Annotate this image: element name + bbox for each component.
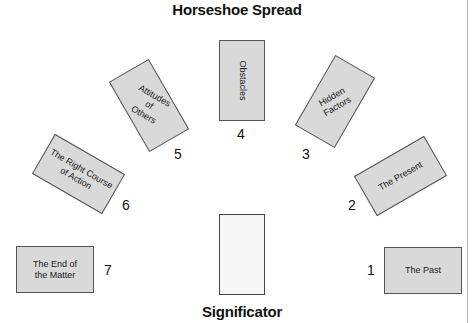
- card-label: Hidden Factors: [316, 84, 353, 118]
- card-label: The Past: [405, 265, 441, 276]
- significator-label: Significator: [0, 303, 474, 320]
- card-label: Obstacles: [237, 60, 248, 100]
- card-significator: [219, 214, 265, 295]
- card-obstacles: Obstacles: [219, 40, 265, 121]
- card-label: The Right Course of Action: [42, 147, 114, 201]
- card-label: The End of the Matter: [33, 259, 77, 281]
- position-number-5: 5: [174, 147, 182, 161]
- card-the-present: The Present: [354, 136, 447, 216]
- diagram-title: Horseshoe Spread: [0, 1, 474, 18]
- card-the-past: The Past: [384, 247, 462, 294]
- card-label: Attitudes of Others: [122, 80, 177, 131]
- position-number-6: 6: [122, 198, 130, 212]
- position-number-3: 3: [302, 147, 310, 161]
- position-number-1: 1: [367, 263, 375, 277]
- position-number-2: 2: [348, 198, 356, 212]
- card-hidden-factors: Hidden Factors: [295, 55, 375, 148]
- card-attitudes-of-others: Attitudes of Others: [109, 59, 189, 152]
- card-right-course-of-action: The Right Course of Action: [32, 134, 125, 214]
- position-number-4: 4: [237, 127, 245, 141]
- position-number-7: 7: [104, 263, 112, 277]
- divider-line: [467, 0, 468, 323]
- card-label: The Present: [377, 159, 425, 193]
- card-end-of-the-matter: The End of the Matter: [16, 246, 94, 293]
